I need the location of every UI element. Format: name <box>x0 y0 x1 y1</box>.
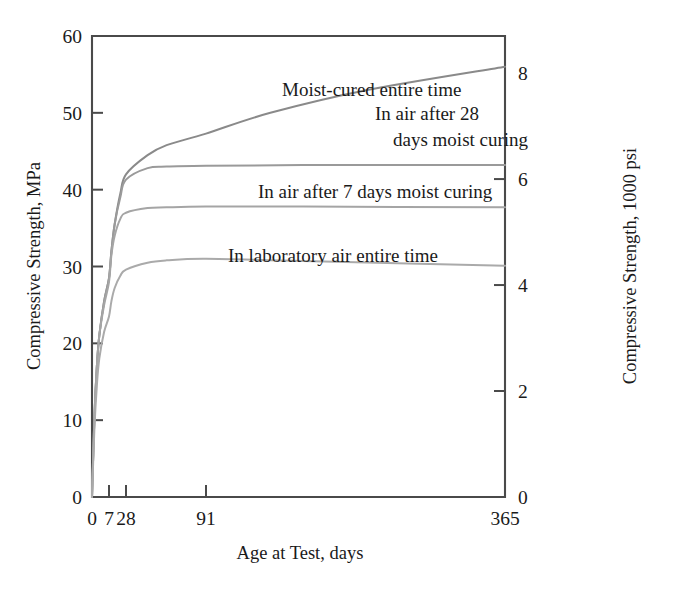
left-axis-tick-labels: 0102030405060 <box>63 26 83 508</box>
right-axis-ticks <box>494 179 505 391</box>
y-axis-title: Compressive Strength, MPa <box>24 162 44 370</box>
x-axis-title: Age at Test, days <box>237 543 364 563</box>
series-label-line: days moist curing <box>393 129 529 150</box>
y2-axis-title: Compressive Strength, 1000 psi <box>620 148 640 384</box>
series-annotations: Moist-cured entire timeIn air after 28da… <box>228 79 529 266</box>
y2-tick-label: 6 <box>518 169 528 190</box>
x-tick-label: 7 <box>104 508 114 529</box>
y2-tick-label: 0 <box>518 487 528 508</box>
x-tick-label: 91 <box>196 508 216 529</box>
series-label-3: In air after 7 days moist curing <box>258 181 493 202</box>
x-tick-label: 28 <box>116 508 136 529</box>
y-tick-label: 20 <box>63 333 83 354</box>
y-tick-label: 60 <box>63 26 83 47</box>
series-label-line: In air after 28 <box>375 103 479 124</box>
y2-tick-label: 4 <box>518 275 528 296</box>
y-tick-label: 40 <box>63 180 83 201</box>
series-curve-2 <box>92 165 505 497</box>
series-curve-4 <box>92 259 505 497</box>
x-axis-tick-labels: 072891365 <box>87 508 520 529</box>
series-label-1: Moist-cured entire time <box>282 79 461 100</box>
series-label-line: In air after 7 days moist curing <box>258 181 493 202</box>
series-label-line: Moist-cured entire time <box>282 79 461 100</box>
compressive-strength-chart: 0102030405060 02468 072891365 Moist-cure… <box>0 0 677 600</box>
y2-tick-label: 8 <box>518 63 528 84</box>
series-label-4: In laboratory air entire time <box>228 245 438 266</box>
y-tick-label: 50 <box>63 103 83 124</box>
y-tick-label: 0 <box>72 487 82 508</box>
x-axis-ticks <box>109 485 206 497</box>
chart-figure: 0102030405060 02468 072891365 Moist-cure… <box>0 0 677 600</box>
y-tick-label: 30 <box>63 257 83 278</box>
y-tick-label: 10 <box>63 410 83 431</box>
x-tick-label: 0 <box>87 508 97 529</box>
x-tick-label: 365 <box>490 508 519 529</box>
y2-tick-label: 2 <box>518 381 528 402</box>
series-label-line: In laboratory air entire time <box>228 245 438 266</box>
